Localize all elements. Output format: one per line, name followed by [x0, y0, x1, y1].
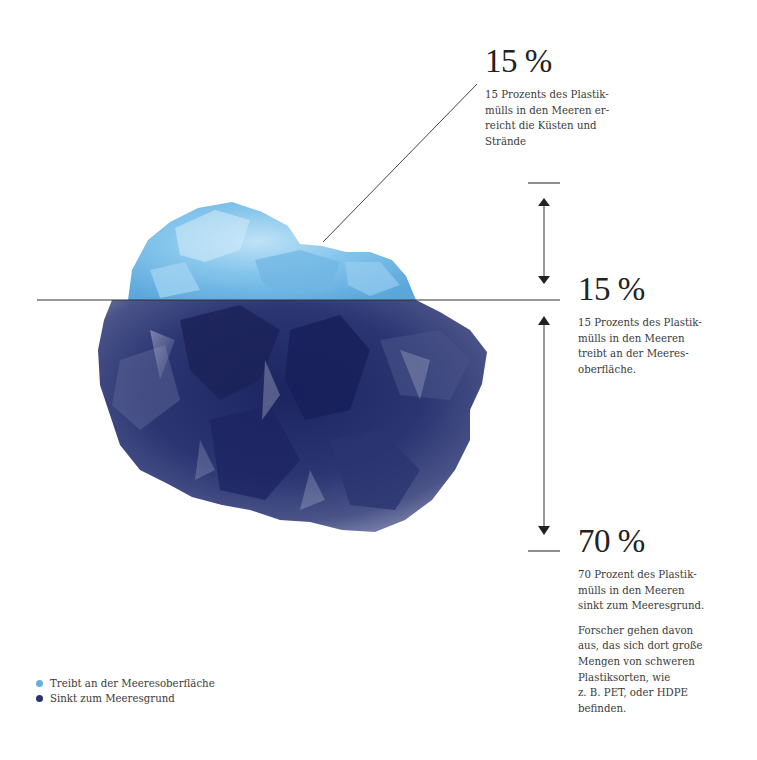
- surface-description: 15 Prozents des Plastik- mülls in den Me…: [578, 315, 702, 377]
- dark-blue-dot-icon: [36, 695, 43, 702]
- arrow-down-icon: [538, 526, 550, 535]
- desc-line: aus, das sich dort große: [578, 638, 704, 654]
- seabed-percent: 70 %: [578, 524, 704, 558]
- legend-label: Sinkt zum Meeresgrund: [50, 691, 175, 706]
- legend-label: Treibt an der Meeresoberfläche: [50, 676, 215, 691]
- leader-line: [323, 84, 477, 242]
- desc-line: treibt an der Meeres-: [578, 346, 702, 362]
- legend-item-seabed: Sinkt zum Meeresgrund: [36, 691, 215, 706]
- seabed-extra-description: Forscher gehen davon aus, das sich dort …: [578, 623, 704, 717]
- desc-line: 70 Prozent des Plastik-: [578, 567, 704, 583]
- desc-line: sinkt zum Meeresgrund.: [578, 598, 704, 614]
- desc-line: reicht die Küsten und: [485, 118, 609, 134]
- coast-percent: 15 %: [485, 44, 609, 78]
- sinking-plastic-shape: [98, 300, 487, 532]
- seabed-description: 70 Prozent des Plastik- mülls in den Mee…: [578, 567, 704, 614]
- desc-line: mülls in den Meeren er-: [485, 103, 609, 119]
- desc-line: mülls in den Meeren: [578, 583, 704, 599]
- desc-line: Plastiksorten, wie: [578, 670, 704, 686]
- light-blue-dot-icon: [36, 680, 43, 687]
- surface-annotation: 15 % 15 Prozents des Plastik- mülls in d…: [578, 272, 702, 377]
- desc-line: Strände: [485, 134, 609, 150]
- desc-line: mülls in den Meeren: [578, 331, 702, 347]
- arrow-down-icon: [538, 276, 550, 284]
- desc-line: 15 Prozents des Plastik-: [578, 315, 702, 331]
- surface-percent: 15 %: [578, 272, 702, 306]
- desc-line: Forscher gehen davon: [578, 623, 704, 639]
- arrow-up-icon: [538, 198, 550, 206]
- coast-description: 15 Prozents des Plastik- mülls in den Me…: [485, 87, 609, 149]
- desc-line: befinden.: [578, 701, 704, 717]
- desc-line: oberfläche.: [578, 362, 702, 378]
- legend: Treibt an der Meeresoberfläche Sinkt zum…: [36, 676, 215, 706]
- desc-line: Mengen von schweren: [578, 654, 704, 670]
- arrow-up-icon: [538, 316, 550, 325]
- floating-plastic-shape: [128, 202, 416, 300]
- seabed-annotation: 70 % 70 Prozent des Plastik- mülls in de…: [578, 524, 704, 716]
- coast-annotation: 15 % 15 Prozents des Plastik- mülls in d…: [485, 44, 609, 149]
- desc-line: z. B. PET, oder HDPE: [578, 685, 704, 701]
- legend-item-surface: Treibt an der Meeresoberfläche: [36, 676, 215, 691]
- desc-line: 15 Prozents des Plastik-: [485, 87, 609, 103]
